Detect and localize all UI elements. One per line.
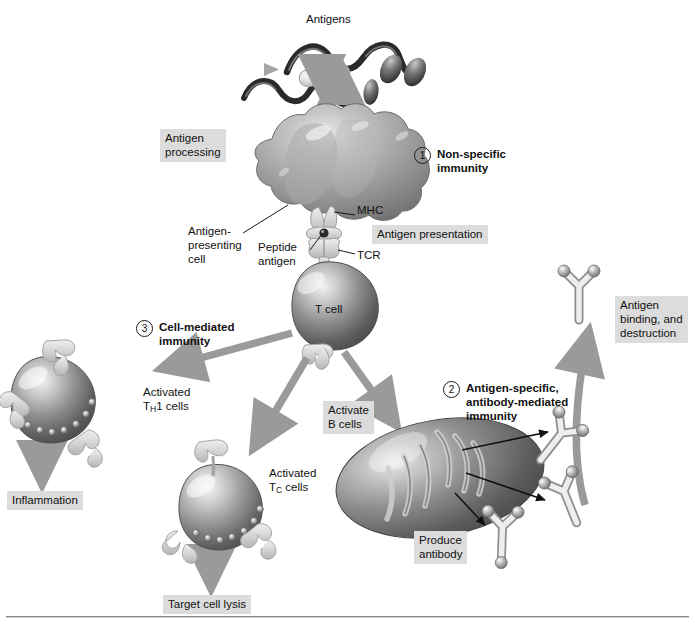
activate-b-cells-label: Activate B cells: [323, 401, 374, 434]
activated-tc-line1: Activated: [269, 467, 316, 479]
activated-th1-cells-label: ActivatedTH1 cells: [143, 385, 190, 416]
leader-apc: [243, 205, 288, 233]
antigens-label: Antigens: [306, 12, 351, 26]
bacilli-dark-icons: [362, 51, 431, 106]
figure-canvas: Antigens Antigen processing 1 Non-specif…: [0, 0, 695, 625]
antigen-presenting-cell-icon: [255, 104, 429, 221]
antigen-processing-label: Antigen processing: [160, 129, 226, 162]
peptide-antigen-label: Peptide antigen: [258, 240, 297, 268]
activated-th1-line2-post: 1 cells: [156, 400, 189, 412]
step-3-number: 3: [136, 320, 153, 337]
diagram-artwork: [0, 0, 695, 625]
activated-tc-line2-pre: T: [269, 481, 276, 493]
activated-tc-line2-post: cells: [282, 481, 308, 493]
step-1-number: 1: [414, 147, 431, 164]
step-2-number: 2: [443, 381, 460, 398]
antibody-icon-top: [558, 265, 600, 320]
step-2-callout: 2 Antigen-specific, antibody-mediated im…: [443, 381, 568, 423]
bottom-divider: [6, 616, 689, 618]
activated-th1-line1: Activated: [143, 386, 190, 398]
target-cell-lysis-label: Target cell lysis: [163, 595, 251, 614]
antigen-binding-destruction-label: Antigen binding, and destruction: [615, 296, 688, 343]
activated-th1-cell-icon: [0, 340, 102, 467]
mhc-tcr-complex-icon: [306, 206, 341, 265]
antigen-triangle-icon: [264, 63, 279, 76]
step-2-text: Antigen-specific, antibody-mediated immu…: [466, 381, 568, 423]
antigens-group: [244, 45, 431, 106]
activated-tc-cells-label: ActivatedTC cells: [269, 466, 316, 497]
inflammation-label: Inflammation: [7, 491, 83, 510]
arrow-to-tc: [253, 358, 307, 449]
step-1-text: Non-specific immunity: [437, 147, 506, 175]
activated-th1-line2-pre: T: [143, 400, 150, 412]
step-1-callout: 1 Non-specific immunity: [414, 147, 506, 175]
step-3-callout: 3 Cell-mediated immunity: [136, 320, 234, 348]
antigen-presentation-label: Antigen presentation: [372, 225, 488, 244]
produce-antibody-label: Produce antibody: [414, 531, 467, 564]
antigen-presenting-cell-label: Antigen- presenting cell: [188, 224, 242, 266]
tcr-label: TCR: [357, 248, 381, 262]
antibody-icon-lower-right: [537, 464, 597, 531]
arrow-to-antigen-binding: [576, 330, 589, 505]
mhc-label: MHC: [357, 203, 383, 217]
leader-tcr: [338, 250, 355, 254]
step-3-text: Cell-mediated immunity: [159, 320, 234, 348]
activated-tc-cell-icon: [162, 440, 276, 563]
t-cell-label: T cell: [315, 302, 342, 316]
